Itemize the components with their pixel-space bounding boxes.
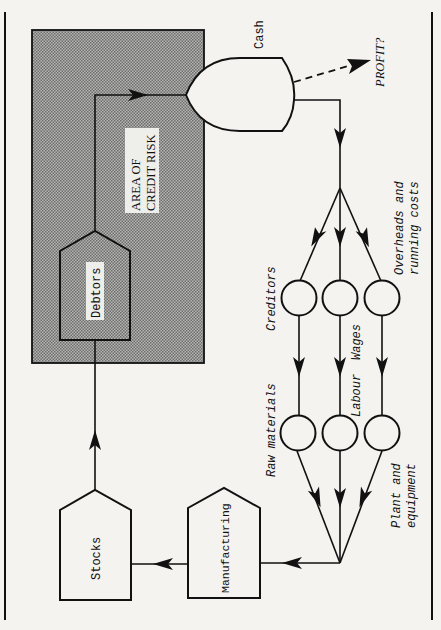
manufacturing-label: Manufacturing xyxy=(219,503,232,593)
labour-node xyxy=(323,416,358,451)
wages-label: Wages xyxy=(350,324,364,360)
arrow-head xyxy=(308,487,326,510)
edge-cash-to-profit xyxy=(294,64,355,82)
overheads-label-line2: running costs xyxy=(408,181,422,275)
plant-equipment-node xyxy=(365,416,400,451)
cash-label: Cash xyxy=(253,20,267,49)
edge-plant-to-merge xyxy=(340,451,382,563)
creditors-node xyxy=(282,281,317,316)
raw-materials-label: Raw materials xyxy=(265,383,279,477)
creditors-label: Creditors xyxy=(265,266,279,331)
stocks-label: Stocks xyxy=(90,537,104,580)
credit-risk-label-line2: CREDIT RISK xyxy=(144,134,158,211)
cash-cycle-diagram: Cash PROFIT? AREA OF CREDIT RISK Debtors… xyxy=(0,0,441,630)
debtors-label: Debtors xyxy=(90,268,104,318)
arrow-head xyxy=(354,487,372,510)
edge-cash-to-split xyxy=(294,100,340,188)
overheads-node xyxy=(365,281,400,316)
credit-risk-label-line1: AREA OF xyxy=(129,159,143,211)
profit-label: PROFIT? xyxy=(373,37,387,88)
raw-materials-node xyxy=(281,416,316,451)
wages-node xyxy=(323,281,358,316)
plant-label-line1: Plant and xyxy=(390,462,404,528)
plant-label-line2: equipment xyxy=(405,463,419,528)
profit-arrow-head xyxy=(347,59,371,74)
edge-raw-materials-to-merge xyxy=(297,451,340,563)
arrow-head xyxy=(308,226,327,249)
labour-label: Labour xyxy=(350,374,364,417)
overheads-label-line1: Overheads and xyxy=(393,181,407,275)
